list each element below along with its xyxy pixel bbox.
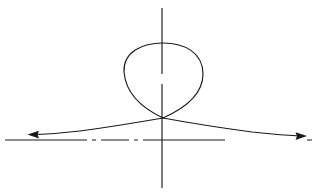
figure-container (0, 0, 323, 193)
left-arrow-icon (28, 131, 40, 139)
curve-right-branch (163, 118, 303, 136)
right-arrow-icon (296, 132, 308, 140)
curve-left-branch (31, 118, 163, 135)
curve-loop (124, 43, 203, 118)
curve-figure (0, 0, 323, 193)
